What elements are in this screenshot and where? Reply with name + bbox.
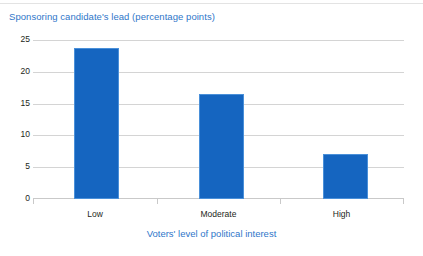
bar-moderate[interactable] — [199, 94, 244, 199]
x-axis-title: Voters' level of political interest — [0, 228, 423, 240]
chart-title: Sponsoring candidate's lead (percentage … — [9, 11, 215, 23]
bar-low[interactable] — [74, 48, 119, 199]
x-axis-ticks — [33, 199, 404, 204]
y-tick-label: 5 — [4, 162, 30, 171]
y-tick-label: 15 — [4, 99, 30, 108]
bar-series — [33, 40, 404, 199]
bar-chart-figure: Sponsoring candidate's lead (percentage … — [0, 0, 423, 256]
bar-high[interactable] — [323, 154, 368, 199]
y-tick-label: 25 — [4, 35, 30, 44]
y-tick-label: 10 — [4, 130, 30, 139]
x-tick — [157, 199, 158, 204]
x-tick — [33, 199, 34, 204]
y-axis-tick-labels: 25 20 15 10 5 0 — [0, 40, 30, 199]
y-tick-label: 0 — [4, 194, 30, 203]
x-category-moderate: Moderate — [157, 208, 280, 220]
x-tick — [280, 199, 281, 204]
figure-top-divider — [0, 3, 423, 4]
y-tick-label: 20 — [4, 67, 30, 76]
x-tick — [403, 199, 404, 204]
x-category-low: Low — [33, 208, 157, 220]
x-category-high: High — [280, 208, 403, 220]
x-axis-category-labels: Low Moderate High — [33, 208, 404, 222]
